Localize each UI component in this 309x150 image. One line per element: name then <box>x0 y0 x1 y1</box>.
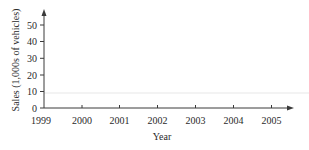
y-tick-label: 40 <box>27 36 37 47</box>
x-axis-arrow-icon <box>287 106 294 111</box>
faint-band <box>44 92 309 94</box>
x-tick-label: 2002 <box>148 115 168 126</box>
y-tick-label: 50 <box>27 20 37 31</box>
chart-canvas: 0 10 20 30 40 50 1999 2000 2001 2002 200… <box>0 0 309 150</box>
y-tick-label: 30 <box>27 53 37 64</box>
y-axis-title: Sales (1,000s of vehicles) <box>10 9 22 112</box>
x-axis-title: Year <box>153 131 172 142</box>
x-tick-label: 2005 <box>262 115 282 126</box>
y-ticks <box>40 25 44 108</box>
x-tick-label: 2003 <box>186 115 206 126</box>
x-tick-label: 2004 <box>224 115 244 126</box>
y-tick-label: 10 <box>27 86 37 97</box>
x-tick-label: 2001 <box>110 115 130 126</box>
y-tick-label: 20 <box>27 70 37 81</box>
x-tick-labels: 1999 2000 2001 2002 2003 2004 2005 <box>31 115 282 126</box>
x-tick-label: 2000 <box>72 115 92 126</box>
x-tick-label: 1999 <box>31 115 51 126</box>
y-axis-arrow-icon <box>42 9 47 16</box>
y-tick-labels: 0 10 20 30 40 50 <box>27 20 37 114</box>
y-tick-label: 0 <box>32 103 37 114</box>
